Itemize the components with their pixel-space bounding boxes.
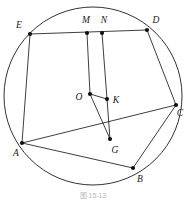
point-label-c: C [177, 108, 184, 118]
point-label-k: K [112, 95, 120, 105]
geometry-figure: ABCDEMNOKG 图 15-13 [0, 0, 186, 202]
point-label-n: N [100, 15, 108, 25]
point-label-m: M [81, 15, 91, 25]
point-label-e: E [15, 20, 22, 30]
point-label-b: B [137, 174, 143, 184]
vertex-dot-n [100, 31, 104, 35]
segment-N-K [102, 33, 107, 99]
vertex-dot-a [20, 141, 24, 145]
point-label-a: A [12, 148, 19, 158]
vertex-dot-o [88, 92, 92, 96]
vertex-dot-m [85, 31, 89, 35]
segment-A-C [22, 105, 176, 143]
vertex-dot-g [108, 137, 112, 141]
point-label-d: D [152, 15, 160, 25]
point-label-g: G [112, 145, 119, 155]
vertex-dot-b [131, 166, 135, 170]
vertex-dot-c [174, 103, 178, 107]
vertex-dot-d [145, 28, 149, 32]
point-label-o: O [76, 92, 83, 102]
segment-O-K [90, 94, 107, 99]
point-label-layer: ABCDEMNOKG [12, 15, 184, 184]
figure-caption: 图 15-13 [80, 192, 107, 200]
vertex-dot-k [105, 97, 109, 101]
geometry-canvas: ABCDEMNOKG 图 15-13 [0, 0, 186, 202]
segment-M-O [87, 33, 90, 94]
segment-A-E [22, 34, 30, 143]
segment-layer [22, 30, 176, 168]
vertex-dot-e [28, 32, 32, 36]
segment-D-C [147, 30, 176, 105]
